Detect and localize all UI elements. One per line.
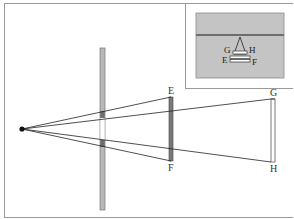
inset-panel: G H E F — [186, 4, 294, 89]
inset-label-h: H — [249, 45, 256, 55]
inset-background — [196, 13, 284, 78]
label-h: H — [270, 163, 277, 174]
vertical-plate — [100, 48, 105, 210]
ray-to-f — [22, 129, 171, 161]
inset-ef-bar-bottom — [230, 60, 250, 63]
inset-label-e: E — [222, 55, 228, 65]
inset-label-f: F — [252, 57, 257, 67]
ray-to-h — [22, 129, 271, 162]
diagram-canvas: G H E F E F G H — [0, 0, 293, 219]
label-e: E — [168, 85, 174, 96]
label-g: G — [270, 87, 277, 98]
inset-label-g: G — [224, 45, 231, 55]
screen-ef — [169, 97, 173, 161]
inset-ef-bar-top — [230, 56, 250, 59]
ray-to-g — [22, 99, 271, 129]
ray-to-e — [22, 97, 171, 129]
screen-gh — [271, 99, 275, 162]
light-rays — [22, 97, 275, 162]
label-f: F — [168, 162, 174, 173]
inset-gh-bar — [233, 51, 247, 54]
plate-aperture — [100, 118, 104, 140]
point-source — [19, 126, 24, 131]
